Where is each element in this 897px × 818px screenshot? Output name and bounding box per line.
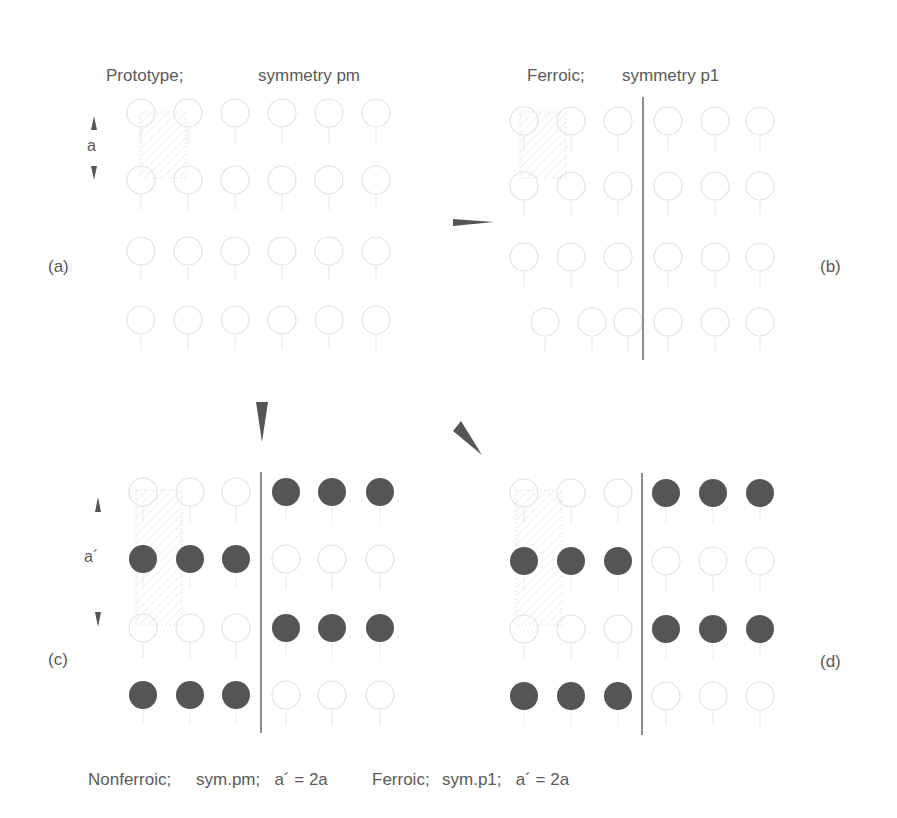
panel-b-lattice — [510, 107, 774, 352]
ferroic-domain-diagram — [0, 0, 897, 818]
panel-a-lattice — [127, 99, 390, 350]
arrow-diagonal-icon — [453, 421, 482, 455]
arrow-up-icon — [95, 497, 101, 512]
arrow-down-icon — [91, 166, 97, 180]
arrow-up-icon — [91, 116, 97, 130]
arrow-down-icon — [95, 612, 101, 627]
unit-cell-hatch — [140, 112, 186, 178]
arrow-down-transition-icon — [256, 402, 268, 442]
arrow-right-icon — [453, 219, 494, 226]
